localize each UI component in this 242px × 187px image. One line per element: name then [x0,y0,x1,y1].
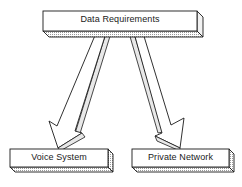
arrow-to-private-network [129,33,184,151]
node-label-data-requirements: Data Requirements [43,14,197,24]
arrow-to-voice-system [49,33,111,151]
node-label-private-network: Private Network [132,152,229,162]
node-label-voice-system: Voice System [10,152,108,162]
